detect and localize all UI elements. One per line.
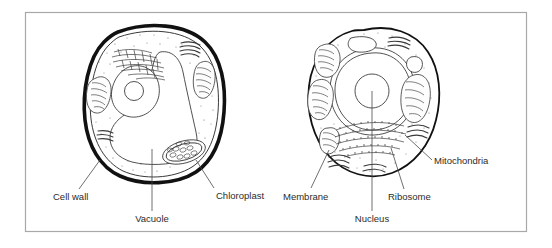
label-mitochondria: Mitochondria: [434, 155, 489, 166]
vesicle-upper-right: [407, 57, 423, 73]
diagram-canvas: Cell wall Vacuole Chloroplast: [0, 0, 552, 248]
label-nucleus: Nucleus: [355, 213, 390, 224]
label-cell-wall: Cell wall: [53, 191, 88, 202]
label-ribosome: Ribosome: [388, 191, 431, 202]
label-vacuole: Vacuole: [135, 213, 169, 224]
mitochondrion-left-upper: [314, 44, 340, 77]
label-membrane: Membrane: [283, 191, 328, 202]
label-chloroplast: Chloroplast: [216, 190, 264, 201]
vesicle-upper-left: [348, 37, 376, 53]
cell-diagram-figure: Cell wall Vacuole Chloroplast: [0, 0, 552, 248]
nucleolus: [125, 82, 144, 101]
